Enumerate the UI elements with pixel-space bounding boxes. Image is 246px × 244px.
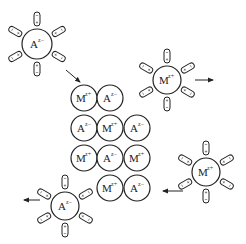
water-dipole-icon	[139, 86, 154, 98]
lattice-anion-9: Az−	[124, 175, 150, 201]
hydrated-cation-top-right: Mz+	[139, 49, 213, 111]
water-dipole-icon	[37, 188, 52, 200]
ion-charge: z+	[111, 121, 118, 127]
hydrated-anion-bottom-left: Az−	[24, 175, 93, 237]
arrow-icon	[66, 70, 80, 82]
ion-charge: z+	[168, 73, 175, 79]
water-dipole-icon	[62, 223, 68, 237]
water-dipole-icon	[178, 154, 193, 166]
water-dipole-icon	[203, 141, 209, 155]
water-dipole-icon	[8, 50, 23, 62]
water-dipole-icon	[34, 12, 40, 26]
ion-charge: z+	[85, 91, 92, 97]
water-dipole-icon	[78, 188, 93, 200]
lattice-anion-6: Az−	[97, 145, 123, 171]
water-dipole-icon	[180, 62, 195, 74]
lattice-cation-8: Mz+	[97, 175, 123, 201]
hydrated-anion-top-left-core: Az−	[22, 29, 52, 59]
ion-symbol: A	[77, 122, 85, 134]
lattice-cation-0: Mz+	[71, 85, 97, 111]
water-dipole-icon	[139, 62, 154, 74]
water-dipole-icon	[37, 212, 52, 224]
lattice-cation-5: Mz+	[71, 145, 97, 171]
water-dipole-icon	[219, 154, 234, 166]
water-dipole-icon	[51, 25, 66, 37]
hydrated-anion-bottom-left-core: Az−	[51, 192, 79, 220]
ion-charge: z−	[111, 91, 118, 97]
lattice-cation-3: Mz+	[97, 115, 123, 141]
lattice-cation-7: Mz+	[124, 145, 150, 171]
ion-symbol: A	[30, 38, 38, 50]
lattice-anion-1: Az−	[97, 85, 123, 111]
water-dipole-icon	[203, 189, 209, 203]
hydrated-cation-top-right-core: Mz+	[153, 66, 181, 94]
ion-charge: z−	[66, 199, 73, 205]
ion-charge: z+	[138, 151, 145, 157]
water-dipole-icon	[178, 178, 193, 190]
water-dipole-icon	[62, 175, 68, 189]
ion-charge: z−	[38, 37, 45, 43]
water-dipole-icon	[51, 50, 66, 62]
hydrated-anion-top-left: Az−	[8, 12, 80, 82]
ionic-dissolution-diagram: Mz+Az−Az−Mz+Az−Mz+Az−Mz+Mz+Az− Az−Mz+Mz+…	[0, 0, 246, 244]
water-dipole-icon	[219, 178, 234, 190]
water-dipole-icon	[164, 49, 170, 63]
ion-charge: z−	[85, 121, 92, 127]
water-dipole-icon	[180, 86, 195, 98]
ion-symbol: A	[130, 122, 138, 134]
water-dipole-icon	[164, 97, 170, 111]
lattice-anion-2: Az−	[71, 115, 97, 141]
ion-symbol: A	[58, 200, 66, 212]
water-dipole-icon	[8, 25, 23, 37]
ion-charge: z+	[207, 165, 214, 171]
ion-charge: z+	[111, 181, 118, 187]
water-dipole-icon	[78, 212, 93, 224]
ion-symbol: A	[103, 92, 111, 104]
ion-charge: z−	[111, 151, 118, 157]
ion-charge: z−	[138, 181, 145, 187]
ion-symbol: A	[103, 152, 111, 164]
lattice-anion-4: Az−	[124, 115, 150, 141]
ion-charge: z+	[85, 151, 92, 157]
ion-symbol: A	[130, 182, 138, 194]
crystal-lattice: Mz+Az−Az−Mz+Az−Mz+Az−Mz+Mz+Az−	[71, 85, 150, 201]
water-dipole-icon	[34, 62, 40, 76]
ion-charge: z−	[138, 121, 145, 127]
hydrated-cation-bottom-right: Mz+	[163, 141, 234, 203]
hydrated-cation-bottom-right-core: Mz+	[192, 158, 220, 186]
